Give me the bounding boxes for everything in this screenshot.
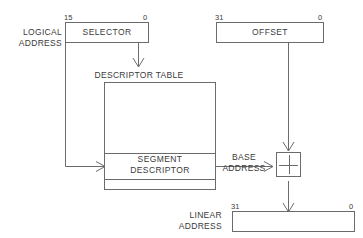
offset-bit-low: 0 <box>318 13 322 22</box>
selector-label: SELECTOR <box>83 27 132 38</box>
linear-address-bit-high: 31 <box>231 202 240 211</box>
descriptor-table-label: DESCRIPTOR TABLE <box>90 70 188 81</box>
linear-address-box[interactable] <box>232 211 355 232</box>
segment-descriptor-row[interactable]: SEGMENT DESCRIPTOR <box>104 152 216 178</box>
linear-address-label: LINEAR ADDRESS <box>150 210 222 231</box>
selector-bit-low: 0 <box>143 13 147 22</box>
selector-bit-high: 15 <box>64 13 73 22</box>
segment-descriptor-label: SEGMENT DESCRIPTOR <box>130 154 190 176</box>
offset-label: OFFSET <box>252 27 288 38</box>
offset-bit-high: 31 <box>215 13 224 22</box>
offset-box[interactable]: OFFSET <box>216 22 324 43</box>
plus-icon-vertical <box>289 155 290 174</box>
adder-box[interactable] <box>276 152 301 177</box>
diagram-canvas: LOGICAL ADDRESS 15 0 SELECTOR 31 0 OFFSE… <box>0 0 363 238</box>
base-address-label: BASE ADDRESS <box>219 152 269 173</box>
linear-address-bit-low: 0 <box>349 202 353 211</box>
logical-address-label: LOGICAL ADDRESS <box>8 27 62 48</box>
descriptor-row-divider-bottom <box>105 179 215 180</box>
selector-box[interactable]: SELECTOR <box>65 22 149 43</box>
selector-to-descriptor-line <box>66 43 105 167</box>
